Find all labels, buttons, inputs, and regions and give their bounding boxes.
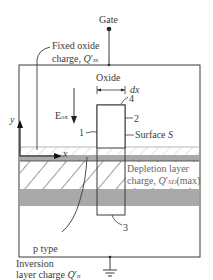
depletion-label-2: charge, Q′SD(max) — [127, 175, 200, 188]
gate-terminal — [107, 27, 112, 67]
axis-x-label: x — [63, 148, 67, 159]
ptype-label: p type — [33, 243, 58, 254]
oxide-label: Oxide — [96, 72, 120, 83]
axis-y-label: y — [10, 114, 14, 125]
label-1: 1 — [79, 127, 84, 138]
mos-diagram — [0, 0, 213, 280]
inversion-label-2: layer charge Q′n — [16, 269, 80, 280]
e-field-arrow — [71, 88, 77, 124]
gray-band — [20, 189, 199, 206]
gate-label: Gate — [99, 14, 118, 25]
label-4: 4 — [129, 93, 134, 104]
label-2: 2 — [134, 113, 139, 124]
surface-label: Surface S — [135, 129, 173, 140]
inversion-label-1: Inversion — [16, 258, 54, 269]
fixed-oxide-label-1: Fixed oxide — [52, 40, 100, 51]
dx-dimension — [97, 86, 125, 94]
fixed-oxide-label-2: charge, Q′ss — [52, 53, 98, 66]
ground-symbol — [103, 256, 117, 276]
depletion-label-1: Depletion layer — [127, 163, 189, 174]
e-field-label: Eox — [55, 110, 68, 123]
label-3: 3 — [123, 222, 128, 233]
